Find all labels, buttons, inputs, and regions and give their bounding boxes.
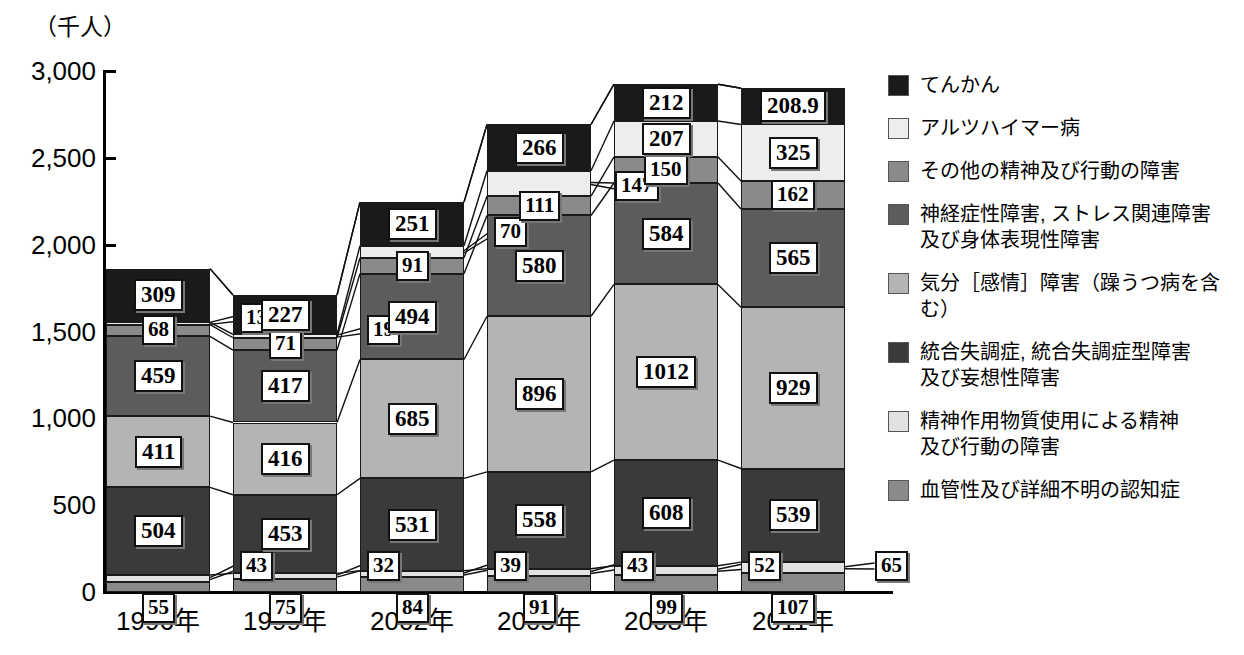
value-label-inside: 55 (142, 593, 175, 623)
legend-swatch-icon (888, 75, 909, 96)
legend-swatch-icon (888, 342, 909, 363)
value-label-inside: 929 (769, 372, 818, 404)
value-label-inside: 896 (515, 378, 564, 410)
value-label-inside: 1012 (636, 356, 696, 388)
value-label-inside: 150 (644, 155, 688, 185)
legend-label: 統合失調症, 統合失調症型障害 及び妄想性障害 (920, 339, 1191, 391)
y-tick-mark (103, 70, 116, 73)
value-label-inside: 99 (650, 593, 683, 623)
legend-label: 神経症性障害, ストレス関連障害 及び身体表現性障害 (920, 201, 1211, 253)
y-tick-label: 0 (10, 579, 96, 605)
y-tick-mark (103, 244, 116, 247)
legend-label: 精神作用物質使用による精神 及び行動の障害 (920, 408, 1179, 460)
value-label-inside: 565 (769, 242, 818, 274)
value-label-inside: 309 (134, 279, 183, 311)
value-label-inside: 68 (142, 315, 175, 345)
legend-item-5[interactable]: 統合失調症, 統合失調症型障害 及び妄想性障害 (888, 339, 1240, 391)
legend-swatch-icon (888, 204, 909, 225)
value-label-inside: 325 (769, 137, 818, 169)
value-label-inside: 584 (642, 218, 691, 250)
value-label-inside: 75 (269, 593, 302, 623)
value-label-outside: 39 (494, 551, 527, 581)
legend-swatch-icon (888, 161, 909, 182)
value-label-inside: 251 (388, 208, 437, 240)
legend-label: その他の精神及び行動の障害 (920, 158, 1180, 184)
value-label-inside: 207 (642, 123, 691, 155)
value-label-outside: 43 (621, 551, 654, 581)
legend-label: てんかん (920, 72, 1000, 98)
value-label-inside: 685 (388, 403, 437, 435)
y-tick-label: 2,000 (10, 232, 96, 258)
value-label-outside: 65 (875, 551, 908, 581)
y-tick-label: 1,500 (10, 319, 96, 345)
value-label-inside: 84 (396, 593, 429, 623)
legend-swatch-icon (888, 273, 909, 294)
value-label-inside: 411 (135, 436, 182, 468)
bar-segment (106, 582, 210, 592)
value-label-inside: 266 (515, 132, 564, 164)
value-label-inside: 531 (388, 509, 437, 541)
value-label-inside: 416 (261, 443, 310, 475)
value-label-inside: 111 (519, 191, 560, 221)
legend-swatch-icon (888, 411, 909, 432)
legend-item-4[interactable]: 気分［感情］障害（躁うつ病を含む） (888, 270, 1240, 322)
y-tick-label: 1,000 (10, 405, 96, 431)
y-tick-mark (103, 157, 116, 160)
value-label-inside: 212 (642, 87, 691, 119)
value-label-inside: 608 (642, 497, 691, 529)
value-label-inside: 71 (269, 329, 302, 359)
value-label-outside: 43 (240, 551, 273, 581)
bar-segment (106, 575, 210, 582)
y-tick-label: 2,500 (10, 145, 96, 171)
legend-item-6[interactable]: 精神作用物質使用による精神 及び行動の障害 (888, 408, 1240, 460)
value-label-inside: 453 (261, 518, 310, 550)
legend-label: 血管性及び詳細不明の認知症 (920, 477, 1180, 503)
value-label-outside: 70 (494, 217, 527, 247)
legend-item-1[interactable]: アルツハイマー病 (888, 115, 1240, 141)
legend: てんかんアルツハイマー病その他の精神及び行動の障害神経症性障害, ストレス関連障… (888, 72, 1240, 520)
legend-item-2[interactable]: その他の精神及び行動の障害 (888, 158, 1240, 184)
legend-swatch-icon (888, 118, 909, 139)
value-label-outside: 52 (748, 551, 781, 581)
y-axis-unit-label: （千人） (34, 8, 126, 42)
value-label-inside: 539 (769, 499, 818, 531)
value-label-inside: 558 (515, 504, 564, 536)
legend-item-3[interactable]: 神経症性障害, ストレス関連障害 及び身体表現性障害 (888, 201, 1240, 253)
value-label-inside: 459 (134, 360, 183, 392)
value-label-inside: 107 (771, 593, 815, 623)
value-label-inside: 91 (523, 593, 556, 623)
value-label-inside: 494 (388, 301, 437, 333)
value-label-inside: 208.9 (760, 90, 826, 122)
value-label-inside: 162 (771, 180, 815, 210)
value-label-inside: 417 (261, 370, 310, 402)
value-label-inside: 504 (134, 515, 183, 547)
value-label-inside: 227 (261, 299, 310, 331)
legend-item-0[interactable]: てんかん (888, 72, 1240, 98)
value-label-outside: 32 (367, 551, 400, 581)
value-label-inside: 91 (396, 251, 429, 281)
legend-label: アルツハイマー病 (920, 115, 1080, 141)
legend-item-7[interactable]: 血管性及び詳細不明の認知症 (888, 477, 1240, 503)
stacked-bar-chart: （千人） 3,0002,5002,0001,5001,0005000 1996年… (0, 0, 1244, 655)
y-tick-label: 3,000 (10, 58, 96, 84)
legend-swatch-icon (888, 480, 909, 501)
y-tick-label: 500 (10, 492, 96, 518)
value-label-inside: 580 (515, 250, 564, 282)
legend-label: 気分［感情］障害（躁うつ病を含む） (920, 270, 1240, 322)
